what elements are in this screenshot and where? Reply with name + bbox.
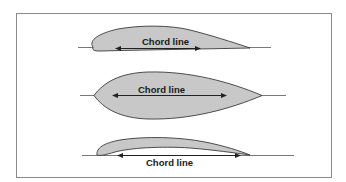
airfoil-shape xyxy=(97,138,250,156)
thin-cambered-airfoil: Chord line xyxy=(82,138,294,168)
airfoil-chord-line-diagram: Chord line Chord line Chord line xyxy=(0,0,346,182)
chord-line-label: Chord line xyxy=(138,84,185,95)
chord-line-label: Chord line xyxy=(146,157,193,168)
symmetrical-airfoil: Chord line xyxy=(80,72,286,119)
chord-line-label: Chord line xyxy=(142,36,189,47)
cambered-airfoil: Chord line xyxy=(78,26,271,51)
